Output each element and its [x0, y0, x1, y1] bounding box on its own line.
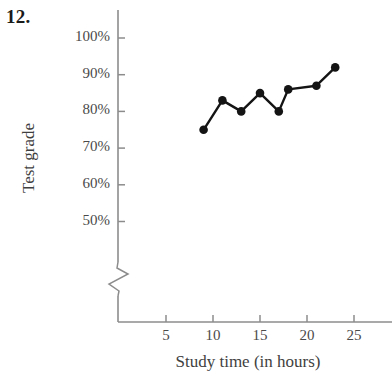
data-point-marker	[237, 107, 246, 116]
data-point-marker	[218, 96, 227, 105]
figure-container: 12. Test grade Study time (in hours) 100…	[0, 0, 392, 378]
data-point-marker	[256, 89, 265, 98]
data-point-marker	[284, 85, 293, 94]
data-point-marker	[275, 107, 284, 116]
data-point-marker	[331, 63, 340, 72]
chart-plot	[0, 0, 392, 378]
data-point-marker	[199, 126, 208, 135]
x-axis-ticks	[166, 315, 354, 322]
data-point-marker	[312, 81, 321, 90]
data-point-markers	[199, 63, 339, 134]
y-axis-break-icon	[109, 262, 128, 296]
y-axis-ticks	[118, 38, 125, 222]
axis-lines	[118, 10, 392, 322]
